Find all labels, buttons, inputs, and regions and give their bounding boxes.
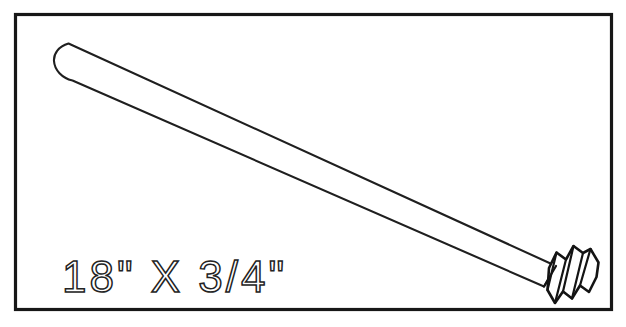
dowel-illustration-svg: 18" X 3/4" — [0, 0, 626, 327]
dimension-label: 18" X 3/4" — [62, 252, 287, 301]
technical-drawing-canvas: 18" X 3/4" — [0, 0, 626, 327]
